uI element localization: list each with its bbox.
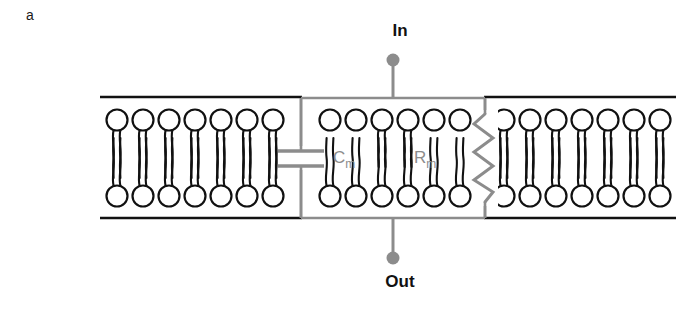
capacitor-symbol <box>278 98 324 218</box>
leaflet-inner-right <box>494 138 671 207</box>
resistor-symbol <box>472 98 498 218</box>
capacitor-label-main: C <box>333 148 345 167</box>
terminal-in-dot[interactable] <box>387 54 400 67</box>
equivalent-circuit: Cm Rm <box>278 54 498 265</box>
resistor-label-main: R <box>414 148 426 167</box>
resistor-label-subscript: m <box>426 157 436 171</box>
leaflet-inner-left <box>107 138 284 207</box>
leaflet-outer-right <box>494 110 671 179</box>
terminal-out[interactable] <box>387 218 400 265</box>
bilayer-segment-left <box>107 110 284 207</box>
terminal-label-out: Out <box>340 273 460 290</box>
resistor-label: Rm <box>414 148 436 171</box>
leaflet-outer-left <box>107 110 284 179</box>
bilayer-segment-right <box>494 110 671 207</box>
capacitor-label-subscript: m <box>345 157 355 171</box>
terminal-in[interactable] <box>387 54 400 99</box>
terminal-label-in: In <box>340 22 460 39</box>
panel-letter: a <box>26 8 34 22</box>
membrane-circuit-diagram: Cm Rm <box>0 0 697 317</box>
terminal-out-dot[interactable] <box>387 252 400 265</box>
figure-root: a In Out <box>0 0 697 317</box>
